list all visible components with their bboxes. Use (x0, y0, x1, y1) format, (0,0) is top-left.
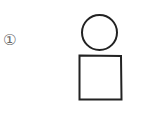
circle-shape (82, 15, 117, 50)
shape-figure (0, 0, 145, 122)
square-shape (80, 56, 122, 100)
